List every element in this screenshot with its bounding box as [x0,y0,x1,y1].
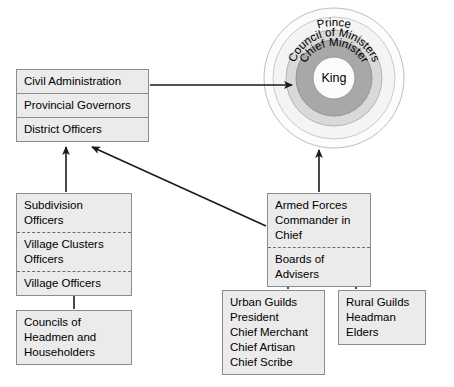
lower-administration-group: Subdivision Officers Village Clusters Of… [16,193,132,296]
cell-rural-guilds[interactable]: Rural Guilds Headman Elders [339,291,425,344]
cell-boards-of-advisers[interactable]: Boards of Advisers [268,247,370,286]
king-core-label: King [321,71,346,85]
cell-subdivision-officers[interactable]: Subdivision Officers [17,194,131,232]
cell-civil-administration[interactable]: Civil Administration [17,70,148,93]
cell-district-officers[interactable]: District Officers [17,117,148,141]
rural-guilds-group: Rural Guilds Headman Elders [338,290,426,345]
cell-provincial-governors[interactable]: Provincial Governors [17,93,148,117]
councils-group: Councils of Headmen and Householders [16,310,132,365]
urban-guilds-group: Urban Guilds President Chief Merchant Ch… [222,290,325,375]
cell-urban-guilds[interactable]: Urban Guilds President Chief Merchant Ch… [223,291,324,374]
cell-councils-of-headmen[interactable]: Councils of Headmen and Householders [17,311,131,364]
cell-village-clusters-officers[interactable]: Village Clusters Officers [17,232,131,271]
cell-village-officers[interactable]: Village Officers [17,271,131,295]
civil-administration-group: Civil Administration Provincial Governor… [16,69,149,142]
armed-forces-group: Armed Forces Commander in Chief Boards o… [267,193,371,287]
cell-armed-forces[interactable]: Armed Forces Commander in Chief [268,194,370,247]
